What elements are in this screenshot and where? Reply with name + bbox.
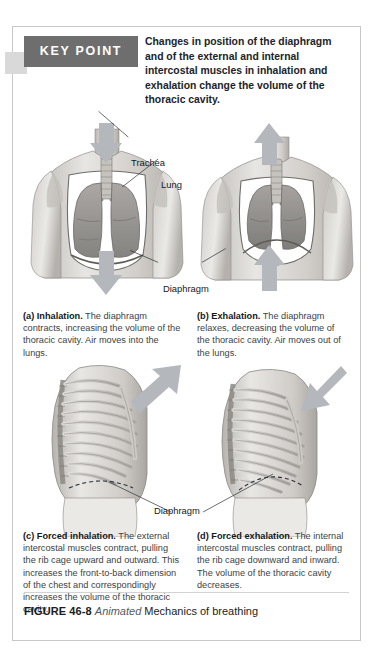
animated-tag: Animated [95, 605, 141, 617]
ribcage-forced-exhalation-svg [195, 362, 361, 537]
panel-d-forced-exhalation-illustration [195, 362, 361, 537]
caption-a-marker: (a) Inhalation. [23, 311, 83, 321]
torso-inhalation-svg [21, 123, 193, 308]
caption-panel-d: (d) Forced exhalation. The internal inte… [197, 530, 349, 591]
label-diaphragm-bottom: Diaphragm [154, 505, 200, 516]
figure-frame: KEY POINT Changes in position of the dia… [12, 26, 361, 641]
figure-title: Mechanics of breathing [144, 605, 258, 617]
key-point-banner-label: KEY POINT [24, 36, 138, 67]
caption-b-marker: (b) Exhalation. [197, 311, 260, 321]
caption-c-body: The external intercostal muscles contrac… [23, 531, 179, 614]
figure-caption: FIGURE 46-8 Animated Mechanics of breath… [24, 605, 354, 617]
figure-caption-divider [24, 592, 349, 593]
caption-panel-b: (b) Exhalation. The diaphragm relaxes, d… [197, 310, 345, 359]
caption-panel-a: (a) Inhalation. The diaphragm contracts,… [23, 310, 183, 359]
figure-number: FIGURE 46-8 [24, 605, 92, 617]
panel-a-inhalation-illustration [21, 123, 193, 308]
torso-exhalation-svg [195, 123, 361, 308]
key-point-text: Changes in position of the diaphragm and… [145, 35, 347, 108]
caption-panel-c: (c) Forced inhalation. The external inte… [23, 530, 183, 615]
label-trachea: Trachea [131, 157, 165, 168]
label-lung: Lung [161, 179, 182, 190]
caption-c-marker: (c) Forced inhalation. [23, 531, 116, 541]
label-diaphragm-top: Diaphragm [163, 283, 209, 294]
caption-d-marker: (d) Forced exhalation. [197, 531, 292, 541]
key-point-block: KEY POINT Changes in position of the dia… [13, 36, 360, 102]
panel-b-exhalation-illustration [195, 123, 361, 308]
